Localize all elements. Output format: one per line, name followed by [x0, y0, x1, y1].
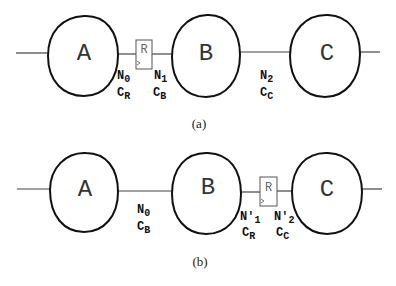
- annotation-n2-prime: N′2 CC: [274, 210, 294, 242]
- svg-text:N0: N0: [137, 203, 150, 219]
- annotation-n0: N0 CR: [117, 69, 130, 102]
- node-label: B: [199, 40, 213, 67]
- annotation-n1: N1 CB: [153, 69, 167, 102]
- node-a: A: [48, 16, 118, 96]
- svg-text:N′2: N′2: [274, 210, 294, 226]
- panel-a: A R B C N0 CR N1 CB N2 CC (a): [16, 15, 380, 131]
- node-label: A: [77, 40, 92, 67]
- panel-b: A B R C N0 CB N′1 CR N′2 CC (b): [17, 153, 382, 269]
- node-label: C: [320, 40, 334, 67]
- svg-text:CB: CB: [153, 86, 166, 102]
- node-a: A: [50, 153, 118, 232]
- svg-text:N0: N0: [117, 69, 130, 85]
- node-c: C: [292, 153, 362, 234]
- svg-text:CR: CR: [117, 86, 130, 102]
- svg-text:CB: CB: [137, 220, 150, 236]
- caption-b: (b): [192, 254, 207, 269]
- register-label: R: [265, 181, 272, 195]
- register: R: [260, 177, 277, 206]
- svg-text:CC: CC: [276, 226, 289, 242]
- annotation-n1-prime: N′1 CR: [240, 210, 260, 242]
- node-label: C: [320, 176, 334, 203]
- annotation-n2: N2 CC: [260, 69, 273, 102]
- svg-text:N2: N2: [260, 69, 273, 85]
- svg-text:CC: CC: [260, 86, 273, 102]
- svg-text:N′1: N′1: [240, 210, 260, 226]
- node-label: A: [78, 176, 93, 203]
- node-b: B: [172, 15, 240, 97]
- annotation-n0-b: N0 CB: [137, 203, 150, 236]
- svg-text:N1: N1: [154, 69, 167, 85]
- retiming-diagram: A R B C N0 CR N1 CB N2 CC (a): [0, 0, 396, 286]
- svg-text:CR: CR: [242, 226, 255, 242]
- node-b: B: [172, 153, 241, 234]
- caption-a: (a): [192, 116, 206, 131]
- register: R: [136, 40, 152, 69]
- register-label: R: [140, 43, 147, 57]
- node-c: C: [290, 15, 360, 97]
- node-label: B: [201, 174, 215, 201]
